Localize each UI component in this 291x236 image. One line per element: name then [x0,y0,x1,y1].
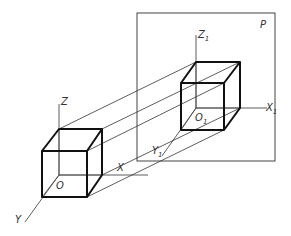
object-cube [42,129,102,197]
z-label: Z [60,96,69,107]
y1-label: Y1 [152,145,163,159]
oblique-projection-diagram: P Z X Y O Z1 X1 Y1 O1 [0,0,291,236]
y-label: Y [15,214,22,225]
origin-label: O [56,180,64,191]
x-label: X [116,162,125,173]
o1-label: O1 [195,112,207,126]
plane-label: P [260,19,267,30]
projected-cube [181,62,240,130]
z1-label: Z1 [197,29,209,43]
